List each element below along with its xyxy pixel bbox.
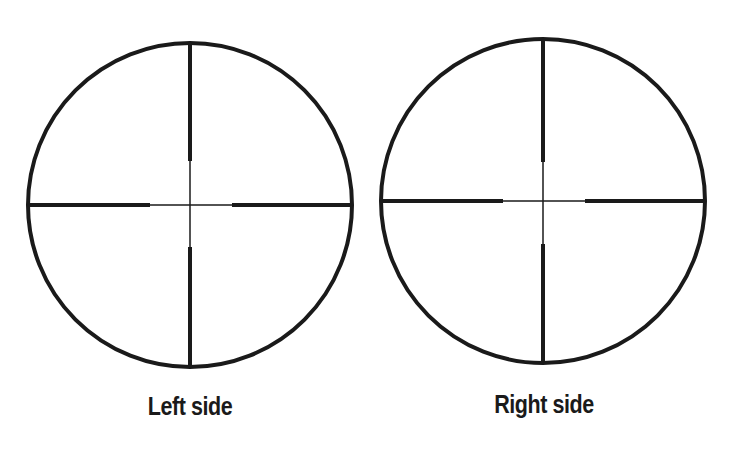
reticle-diagram xyxy=(0,0,731,453)
right-side-caption: Right side xyxy=(449,390,638,419)
right-reticle xyxy=(381,39,705,363)
left-side-caption: Left side xyxy=(95,392,284,421)
reticle-comparison-figure: Left side Right side xyxy=(0,0,731,453)
left-reticle xyxy=(28,43,352,367)
